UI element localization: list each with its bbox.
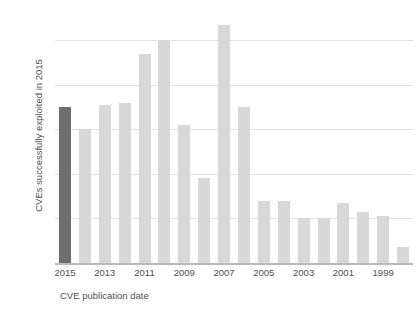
x-axis-title: CVE publication date [60, 290, 149, 301]
bar [278, 201, 290, 263]
x-tick-label: 2001 [326, 268, 360, 278]
x-tick-label: 2009 [167, 268, 201, 278]
bar [79, 129, 91, 263]
axis-baseline [55, 263, 413, 265]
cve-exploit-bar-chart: CVEs successfully exploited in 2015 0204… [0, 0, 418, 315]
x-tick-label: 1999 [366, 268, 400, 278]
bar [139, 54, 151, 263]
bar [198, 178, 210, 263]
bar [99, 105, 111, 263]
y-axis-title: CVEs successfully exploited in 2015 [33, 26, 44, 246]
gridline [55, 40, 413, 41]
x-tick-label: 2003 [287, 268, 321, 278]
x-tick-label: 2005 [247, 268, 281, 278]
bar [258, 201, 270, 263]
gridline [55, 85, 413, 86]
bar [158, 40, 170, 263]
bar [218, 25, 230, 263]
bar [178, 125, 190, 263]
bar [119, 103, 131, 263]
bar [238, 107, 250, 263]
bar [337, 203, 349, 263]
x-tick-label: 2011 [128, 268, 162, 278]
bar [59, 107, 71, 263]
plot-area: 020406080100 201520132011200920072005200… [55, 18, 413, 263]
clipped-caption-text [150, 0, 400, 7]
bar [318, 218, 330, 263]
x-tick-label: 2007 [207, 268, 241, 278]
x-tick-label: 2013 [88, 268, 122, 278]
bar [357, 212, 369, 263]
bar [298, 218, 310, 263]
x-tick-label: 2015 [48, 268, 82, 278]
bar [377, 216, 389, 263]
bar [397, 247, 409, 263]
